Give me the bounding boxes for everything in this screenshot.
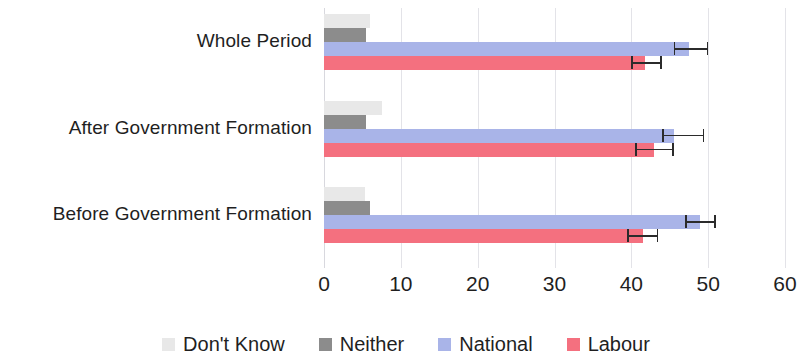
- x-tick-label-50: 50: [696, 272, 719, 296]
- legend-label: Neither: [340, 333, 404, 356]
- legend-item-neither[interactable]: Neither: [319, 333, 404, 356]
- legend-label: Don't Know: [183, 333, 285, 356]
- error-bar: [674, 42, 709, 56]
- square-swatch-icon: [567, 338, 580, 351]
- x-axis-tick-labels: 0102030405060: [324, 272, 785, 302]
- bar-labour-2: [324, 143, 654, 157]
- horizontal-bar-chart: Whole PeriodAfter Government FormationBe…: [0, 0, 812, 361]
- error-bar-cap-high: [707, 42, 709, 55]
- error-bar-cap-high: [660, 56, 662, 69]
- legend-item-labour[interactable]: Labour: [567, 333, 650, 356]
- gridline-x-60: [785, 8, 786, 268]
- error-bar-line: [627, 235, 658, 237]
- plot-area: [324, 8, 785, 268]
- error-bar-cap-high: [672, 143, 674, 156]
- x-tick-label-60: 60: [773, 272, 796, 296]
- bar-national-1: [324, 42, 689, 56]
- error-bar-cap-high: [703, 129, 705, 142]
- error-bar-cap-low: [674, 42, 676, 55]
- x-tick-label-30: 30: [543, 272, 566, 296]
- legend-label: National: [459, 333, 532, 356]
- x-tick-label-20: 20: [466, 272, 489, 296]
- square-swatch-icon: [319, 338, 332, 351]
- error-bar-cap-low: [685, 215, 687, 228]
- bar-don-t-know-1: [324, 14, 370, 28]
- error-bar-line: [635, 149, 673, 151]
- square-swatch-icon: [162, 338, 175, 351]
- bar-national-2: [324, 129, 674, 143]
- legend-label: Labour: [588, 333, 650, 356]
- bar-labour-1: [324, 56, 645, 70]
- bar-national-3: [324, 215, 700, 229]
- legend-item-national[interactable]: National: [438, 333, 532, 356]
- error-bar: [627, 229, 658, 243]
- chart-legend: Don't KnowNeitherNationalLabour: [0, 327, 812, 361]
- x-tick-label-0: 0: [318, 272, 330, 296]
- x-tick-label-10: 10: [389, 272, 412, 296]
- category-axis-labels: Whole PeriodAfter Government FormationBe…: [0, 0, 312, 275]
- error-bar-line: [631, 62, 662, 64]
- error-bar-line: [674, 48, 709, 50]
- bar-neither-3: [324, 201, 370, 215]
- bar-labour-3: [324, 229, 643, 243]
- error-bar: [635, 143, 673, 157]
- error-bar-cap-high: [657, 229, 659, 242]
- bar-don-t-know-2: [324, 101, 382, 115]
- category-label: After Government Formation: [69, 117, 312, 139]
- error-bar-cap-low: [631, 56, 633, 69]
- error-bar-cap-high: [714, 215, 716, 228]
- error-bar: [662, 129, 704, 143]
- bar-neither-1: [324, 28, 366, 42]
- error-bar-cap-low: [635, 143, 637, 156]
- error-bar-line: [662, 135, 704, 137]
- x-tick-label-40: 40: [620, 272, 643, 296]
- error-bar: [685, 215, 716, 229]
- error-bar-line: [685, 221, 716, 223]
- square-swatch-icon: [438, 338, 451, 351]
- error-bar-cap-low: [662, 129, 664, 142]
- bar-neither-2: [324, 115, 366, 129]
- category-label: Whole Period: [197, 30, 312, 52]
- error-bar: [631, 56, 662, 70]
- legend-item-don-t-know[interactable]: Don't Know: [162, 333, 285, 356]
- category-label: Before Government Formation: [53, 203, 312, 225]
- bar-don-t-know-3: [324, 187, 365, 201]
- error-bar-cap-low: [627, 229, 629, 242]
